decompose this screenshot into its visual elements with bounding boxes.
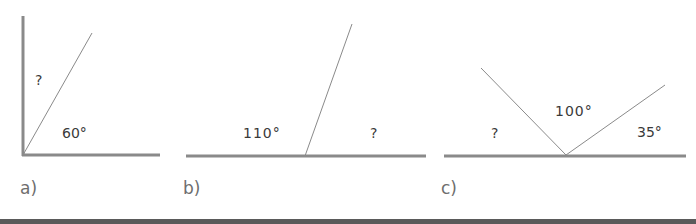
figure-b-ray [305,24,352,156]
figure-a-unknown-angle-label: ? [35,72,42,88]
figure-c-middle-angle-label: 100° [555,103,593,119]
figure-a-part-label: a) [20,178,37,198]
figure-c-unknown-angle-label: ? [491,125,498,141]
figure-a [22,16,160,156]
figure-c-part-label: c) [441,178,457,198]
figure-b [186,24,426,156]
figure-a-known-angle-label: 60° [62,125,87,141]
figure-c-right-ray [566,85,665,155]
bottom-divider-band [0,219,696,224]
figure-c-left-ray [481,68,566,155]
figure-b-unknown-angle-label: ? [370,125,377,141]
figure-b-part-label: b) [183,178,200,198]
figure-c-right-angle-label: 35° [637,124,662,140]
figure-b-known-angle-label: 110° [243,125,281,141]
